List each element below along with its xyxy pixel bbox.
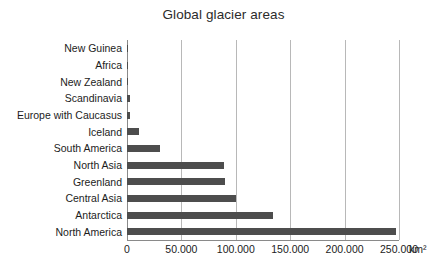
category-label: Central Asia <box>0 192 122 204</box>
bar <box>127 145 160 152</box>
x-axis-unit-label: km² <box>409 243 427 255</box>
bar-row <box>127 157 399 174</box>
bar-row <box>127 190 399 207</box>
category-label: Europe with Caucasus <box>0 109 122 121</box>
category-label: South America <box>0 142 122 154</box>
bar-row <box>127 173 399 190</box>
category-axis-labels: New GuineaAfricaNew ZealandScandinaviaEu… <box>0 40 122 240</box>
bar <box>127 128 139 135</box>
bar <box>127 178 225 185</box>
bar <box>127 78 128 85</box>
plot-area <box>127 40 399 240</box>
bar-row <box>127 90 399 107</box>
x-tick-label: 50.000 <box>165 243 197 255</box>
x-tick-label: 150.000 <box>271 243 309 255</box>
bar <box>127 195 236 202</box>
category-label: Greenland <box>0 176 122 188</box>
bar-row <box>127 123 399 140</box>
bar-row <box>127 57 399 74</box>
category-label: Antarctica <box>0 209 122 221</box>
x-axis-tick-labels: 050.000100.000150.000200.000250.000 <box>0 243 447 259</box>
bar <box>127 228 396 235</box>
x-tick-label: 0 <box>124 243 130 255</box>
category-label: North Asia <box>0 159 122 171</box>
bar-row <box>127 223 399 240</box>
glacier-area-bar-chart: Global glacier areas New GuineaAfricaNew… <box>0 0 447 269</box>
bar <box>127 212 273 219</box>
bar-row <box>127 40 399 57</box>
gridline-250000 <box>399 40 400 240</box>
category-label: New Zealand <box>0 76 122 88</box>
category-label: Africa <box>0 59 122 71</box>
bar <box>127 112 130 119</box>
category-label: North America <box>0 226 122 238</box>
bar <box>127 95 130 102</box>
x-tick-label: 100.000 <box>217 243 255 255</box>
category-label: Scandinavia <box>0 92 122 104</box>
bar <box>127 162 224 169</box>
x-axis-line <box>127 240 399 241</box>
bar-row <box>127 140 399 157</box>
x-tick-label: 200.000 <box>326 243 364 255</box>
category-label: New Guinea <box>0 42 122 54</box>
chart-title: Global glacier areas <box>0 7 447 22</box>
bar-row <box>127 73 399 90</box>
category-label: Iceland <box>0 126 122 138</box>
bar-row <box>127 207 399 224</box>
bar-rows <box>127 40 399 240</box>
bar-row <box>127 107 399 124</box>
